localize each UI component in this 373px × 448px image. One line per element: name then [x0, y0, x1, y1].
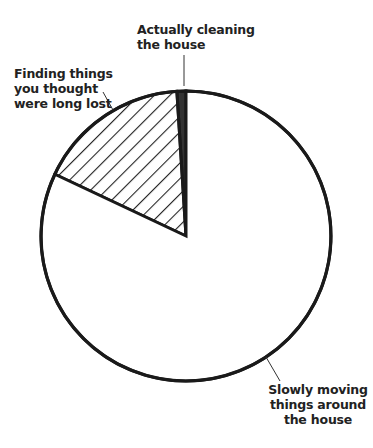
label-slowly-moving: Slowly moving things around the house	[268, 382, 368, 427]
label-actually-cleaning: Actually cleaning the house	[137, 22, 255, 52]
leader-line-slowly	[266, 357, 280, 381]
label-finding-things: Finding things you thought were long los…	[14, 66, 113, 111]
